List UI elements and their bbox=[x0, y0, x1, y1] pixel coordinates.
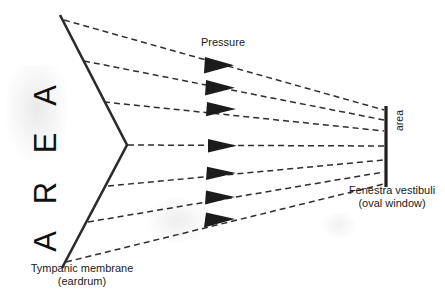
pressure-arrowhead-5 bbox=[206, 167, 236, 180]
pressure-ray-group bbox=[64, 20, 384, 262]
fenestra-vestibuli-label: Fenestra vestibuli (oval window) bbox=[341, 184, 443, 210]
pressure-arrowhead-1 bbox=[204, 57, 234, 74]
tympanic-membrane-label-line2: (eardrum) bbox=[8, 275, 156, 288]
area-large-label: A R E A bbox=[28, 75, 64, 252]
pressure-label: Pressure bbox=[201, 36, 245, 49]
area-small-label: area bbox=[393, 110, 406, 131]
pressure-ray-2 bbox=[84, 61, 384, 120]
pressure-arrowhead-group bbox=[204, 57, 237, 227]
pressure-arrowhead-4 bbox=[208, 139, 237, 153]
tympanic-membrane-line bbox=[60, 15, 127, 268]
fenestra-vestibuli-label-line2: (oval window) bbox=[341, 197, 443, 210]
pressure-arrowhead-2 bbox=[205, 80, 235, 96]
pressure-ray-3 bbox=[104, 102, 384, 131]
pressure-arrowhead-6 bbox=[205, 191, 235, 205]
figure-canvas: Pressure A R E A area Tympanic membrane … bbox=[0, 0, 445, 295]
tympanic-membrane-label-line1: Tympanic membrane bbox=[8, 262, 156, 275]
pressure-ray-4 bbox=[128, 145, 384, 146]
pressure-ray-6 bbox=[88, 172, 384, 222]
pressure-arrowhead-3 bbox=[206, 102, 236, 116]
fenestra-vestibuli-label-line1: Fenestra vestibuli bbox=[341, 184, 443, 197]
pressure-ray-5 bbox=[108, 160, 384, 186]
pressure-arrowhead-7 bbox=[204, 212, 235, 227]
tympanic-membrane-label: Tympanic membrane (eardrum) bbox=[8, 262, 156, 288]
